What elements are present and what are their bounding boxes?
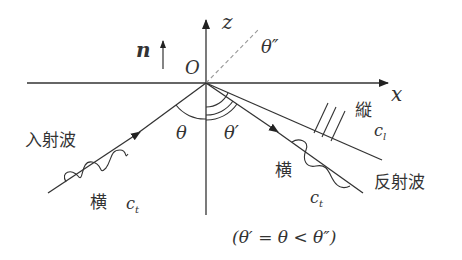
longitudinal-angle-reference-dashed [206,30,258,83]
incident-wave-label: 入射波 [25,132,76,149]
incident-angle-label: θ [176,124,187,142]
x-axis-label: x [391,84,402,104]
origin-label: O [185,59,200,77]
reflected-longitudinal-angle-label: θ″ [261,38,279,56]
longitudinal-hatch-3 [331,111,345,141]
normal-vector-label: n [136,40,151,60]
z-axis-label: z [222,12,233,32]
angle-relation-caption: (θ′ = θ < θ″) [232,229,336,246]
incident-wave-speed: ct [126,196,139,215]
reflected-longitudinal-type-label: 縦 [355,102,372,119]
reflected-transverse-ray [206,83,278,132]
incident-ray-continuation [138,83,206,133]
reflected-longitudinal-speed: cl [374,123,386,142]
incident-wave-type-label: 横 [90,194,107,211]
reflected-transverse-speed: ct [310,190,323,209]
reflected-transverse-type-label: 横 [275,162,292,179]
reflected-wave-label: 反射波 [374,174,425,191]
incident-transverse-wiggle [64,150,128,182]
incident-angle-arc [176,105,206,119]
reflected-transverse-angle-label: θ′ [224,124,239,142]
